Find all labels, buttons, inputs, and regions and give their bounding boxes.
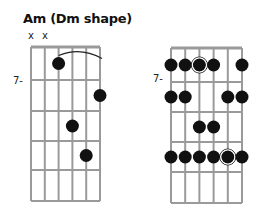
note-dot <box>236 59 249 72</box>
note-dot <box>66 120 79 133</box>
note-dot <box>165 151 178 164</box>
note-dot <box>236 91 249 104</box>
right-fretboard <box>165 48 249 203</box>
note-dot <box>179 59 192 72</box>
fretboard-diagrams <box>0 0 257 217</box>
barre-arc <box>59 52 102 59</box>
note-dot <box>221 91 234 104</box>
note-dot <box>207 59 220 72</box>
note-dot <box>52 57 65 70</box>
note-dot <box>236 151 249 164</box>
note-dot <box>193 151 206 164</box>
root-note-dot <box>221 151 234 164</box>
note-dot <box>179 151 192 164</box>
note-dot <box>94 89 107 102</box>
note-dot <box>80 149 93 162</box>
note-dot <box>207 121 220 134</box>
left-fretboard <box>31 47 107 201</box>
note-dot <box>193 121 206 134</box>
note-dot <box>165 91 178 104</box>
note-dot <box>207 151 220 164</box>
note-dot <box>179 91 192 104</box>
root-note-dot <box>193 59 206 72</box>
note-dot <box>165 59 178 72</box>
